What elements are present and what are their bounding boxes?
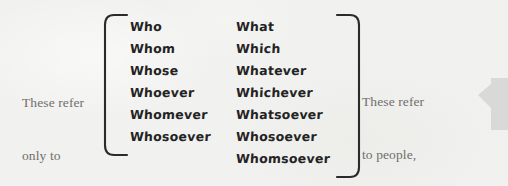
word-item: Whichever [235,82,330,104]
word-item: What [235,16,330,38]
word-item: Whomsoever [235,148,330,170]
word-item: Which [235,38,330,60]
right-curly-bracket-icon [334,12,364,180]
word-item: Whosoever [235,126,330,148]
word-column-things: What Which Whatever Whichever Whatsoever… [236,16,330,170]
left-pointing-tab-arrow-icon [478,78,508,130]
word-column-people: Who Whom Whose Whoever Whomever Whosoeve… [130,16,211,148]
word-item: Whoever [129,82,211,104]
people-places-things-caption: These refer to people, places, or things [362,58,424,186]
caption-line: These refer [362,93,424,111]
word-item: Who [129,16,211,38]
caption-line: These refer [22,94,84,112]
word-item: Whosoever [129,126,211,148]
word-item: Whom [129,38,211,60]
word-item: Whatsoever [235,104,330,126]
relative-pronouns-figure: These refer only to people Who Whom Whos… [0,0,508,186]
word-item: Whomever [129,104,211,126]
word-item: Whose [129,60,211,82]
caption-line: only to [22,147,84,165]
word-item: Whatever [235,60,330,82]
caption-line: to people, [362,146,424,164]
people-only-caption: These refer only to people [22,59,84,186]
left-curly-bracket-icon [100,12,130,158]
